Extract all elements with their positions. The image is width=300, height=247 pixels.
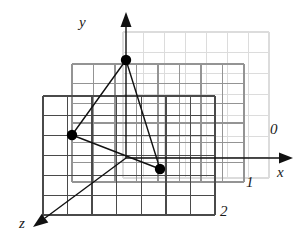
vertex-top-dot [121, 55, 131, 65]
triangle-group [67, 55, 165, 174]
vertex-left-dot [67, 130, 77, 140]
figure-canvas: x y z 0 1 2 [0, 0, 300, 247]
vertex-right-dot [155, 164, 165, 174]
plane-label-1: 1 [246, 174, 254, 190]
y-axis-label: y [77, 14, 86, 30]
plane-label-2: 2 [220, 203, 228, 219]
z-axis-line [45, 158, 126, 218]
x-axis-label: x [276, 164, 284, 180]
triangle-outline [72, 60, 160, 169]
coordinate-system-diagram: x y z 0 1 2 [0, 0, 300, 247]
plane-label-0: 0 [270, 121, 278, 137]
arrow-up-icon [121, 12, 132, 27]
grid-plane-2 [43, 96, 215, 215]
z-axis-label: z [18, 215, 25, 231]
arrow-right-icon [279, 153, 293, 164]
